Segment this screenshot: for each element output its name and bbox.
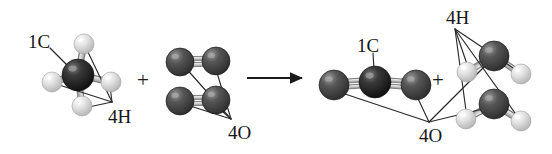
label-reactant-hydrogen-count: 4H <box>108 107 131 126</box>
atom-oxygen-carbon-dioxide <box>319 70 349 100</box>
atom-oxygen-water-lower <box>479 89 509 119</box>
plus-sign-products: + <box>432 70 444 91</box>
atom-oxygen-dioxygen-lower <box>202 86 230 114</box>
label-product-hydrogen-count: 4H <box>446 8 469 27</box>
atom-hydrogen-water-upper <box>511 64 531 84</box>
atom-oxygen-dioxygen-upper <box>166 48 194 76</box>
atom-oxygen-dioxygen-lower <box>166 87 194 115</box>
label-reactant-oxygen-count: 4O <box>228 123 251 142</box>
atom-hydrogen-water-lower <box>456 109 476 129</box>
atom-hydrogen-methane <box>72 96 92 116</box>
atom-carbon-carbon-dioxide <box>359 66 391 98</box>
atom-carbon-methane <box>62 59 94 91</box>
atom-oxygen-carbon-dioxide <box>401 70 431 100</box>
atom-oxygen-water-upper <box>479 41 509 71</box>
label-product-carbon-count: 1C <box>357 36 379 55</box>
plus-sign-reactants: + <box>137 70 149 91</box>
atom-hydrogen-methane <box>42 72 62 92</box>
reaction-diagram-figure: 1C 4H 4O 1C 4H 4O + + <box>0 0 552 154</box>
atom-hydrogen-methane <box>101 72 121 92</box>
atom-hydrogen-methane <box>74 34 94 54</box>
label-product-oxygen-count: 4O <box>419 126 442 145</box>
label-reactant-carbon-count: 1C <box>28 32 50 51</box>
atom-hydrogen-water-upper <box>457 62 477 82</box>
atom-hydrogen-water-lower <box>511 111 531 131</box>
atom-oxygen-dioxygen-upper <box>202 47 230 75</box>
